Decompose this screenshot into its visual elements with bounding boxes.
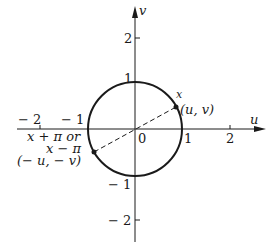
u-tick-label-neg2: − 2 [18,112,41,127]
v-axis-label: v [139,3,147,18]
point-neg-u-neg-v [92,150,97,155]
u-tick-label-2: 2 [226,131,234,146]
v-tick-label-2: 2 [124,31,132,46]
unit-circle-diagram: v u 0 − 2 − 1 1 2 2 1 − 1 − 2 x (u, v) x… [0,0,279,244]
u-tick-label-neg1: − 1 [61,112,84,127]
v-tick-label-1: 1 [124,71,132,86]
point-u-v [174,105,179,110]
v-tick-label-neg2: − 2 [108,213,131,228]
v-axis-arrow-icon [132,6,138,18]
point-coord-label-neg-u-neg-v: (− u, − v) [17,153,81,168]
point-angle-label-x: x [176,88,183,101]
u-axis-label: u [250,112,258,127]
u-tick-label-1: 1 [184,131,192,146]
point-coord-label-u-v: (u, v) [180,102,214,117]
v-tick-label-neg1: − 1 [108,177,131,192]
origin-label: 0 [138,131,146,146]
